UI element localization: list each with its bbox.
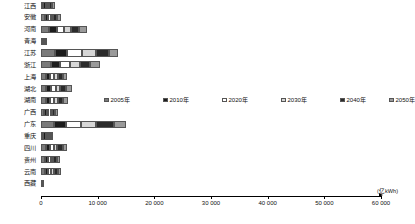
bar-segment (57, 14, 61, 21)
legend-item-1[interactable]: 2010年 (163, 97, 189, 103)
bar-segment (63, 144, 68, 151)
bar-segment (60, 61, 70, 68)
y-axis-labels: 江西安徽河南青海江苏浙江上海湖北湖南广西广东重庆四川贵州云南西藏 (0, 0, 38, 196)
bar-segment (52, 2, 55, 9)
y-axis-label-13: 贵州 (24, 157, 36, 163)
x-axis-unit-label: (亿kWh) (377, 188, 398, 194)
y-axis-label-3: 青海 (24, 38, 36, 44)
bar-segment (51, 132, 53, 139)
bar-segment (114, 121, 126, 128)
y-axis-label-0: 江西 (24, 3, 36, 9)
legend-label: 2050年 (396, 97, 415, 103)
bar-segment (81, 121, 96, 128)
y-axis-label-6: 上海 (24, 74, 36, 80)
bar-segment (41, 49, 55, 56)
x-tick (381, 196, 382, 199)
bar-segment (80, 61, 91, 68)
y-axis-label-1: 安徽 (24, 14, 36, 20)
legend-swatch-icon (222, 98, 227, 103)
x-tick-label-5: 50 000 (315, 200, 333, 206)
bar-segment (96, 49, 109, 56)
y-axis-label-14: 云南 (24, 169, 36, 175)
legend-item-3[interactable]: 2030年 (281, 97, 307, 103)
y-axis-label-4: 江苏 (24, 50, 36, 56)
bar-segment (66, 121, 82, 128)
y-axis-label-9: 广西 (24, 109, 36, 115)
legend-swatch-icon (389, 98, 394, 103)
legend-swatch-icon (281, 98, 286, 103)
bar-segment (79, 26, 87, 33)
bar-segment (82, 49, 96, 56)
bar-segment (58, 168, 62, 175)
bar-segment (63, 97, 68, 104)
bar-segment (55, 109, 58, 116)
legend-item-0[interactable]: 2005年 (104, 97, 130, 103)
bar-segment (55, 49, 67, 56)
bar-segment (57, 26, 64, 33)
y-axis-label-7: 湖北 (24, 86, 36, 92)
x-tick (324, 196, 325, 199)
x-tick (268, 196, 269, 199)
legend-label: 2010年 (170, 97, 189, 103)
bar-segment (71, 26, 80, 33)
bar-segment (41, 26, 49, 33)
legend-swatch-icon (104, 98, 109, 103)
x-tick-label-3: 30 000 (202, 200, 220, 206)
bar-segment (49, 26, 57, 33)
x-tick (154, 196, 155, 199)
bar-segment (70, 61, 79, 68)
y-axis-label-10: 广东 (24, 121, 36, 127)
legend-label: 2030年 (288, 97, 307, 103)
x-tick-label-1: 10 000 (88, 200, 106, 206)
bar-segment (63, 73, 67, 80)
x-tick-label-4: 40 000 (258, 200, 276, 206)
bar-segment (41, 61, 51, 68)
bar-segment (54, 121, 66, 128)
legend-label: 2040年 (347, 97, 366, 103)
x-tick (211, 196, 212, 199)
x-tick-label-2: 20 000 (145, 200, 163, 206)
y-axis-label-11: 重庆 (24, 133, 36, 139)
legend-swatch-icon (340, 98, 345, 103)
y-axis-label-15: 西藏 (24, 180, 36, 186)
bar-segment (64, 26, 71, 33)
bar-segment (96, 121, 114, 128)
legend-label: 2005年 (111, 97, 130, 103)
legend-item-5[interactable]: 2050年 (389, 97, 415, 103)
bar-segment (109, 49, 118, 56)
chart-legend: 2005年2010年2020年2030年2040年2050年 (104, 97, 396, 109)
bar-segment (45, 38, 47, 45)
y-axis-label-5: 浙江 (24, 62, 36, 68)
legend-item-4[interactable]: 2040年 (340, 97, 366, 103)
y-axis-label-8: 湖南 (24, 97, 36, 103)
bar-segment (41, 121, 54, 128)
legend-item-2[interactable]: 2020年 (222, 97, 248, 103)
y-axis-label-2: 河南 (24, 26, 36, 32)
bar-segment (67, 49, 82, 56)
bar-segment (51, 61, 60, 68)
legend-swatch-icon (163, 98, 168, 103)
y-axis-label-12: 四川 (24, 145, 36, 151)
x-tick (98, 196, 99, 199)
bar-segment (66, 85, 72, 92)
bar-segment (57, 156, 61, 163)
legend-label: 2020年 (229, 97, 248, 103)
x-tick (41, 196, 42, 199)
bar-segment (90, 61, 100, 68)
x-tick-label-6: 60 000 (372, 200, 390, 206)
bar-segment (42, 180, 44, 187)
x-tick-label-0: 0 (39, 200, 42, 206)
